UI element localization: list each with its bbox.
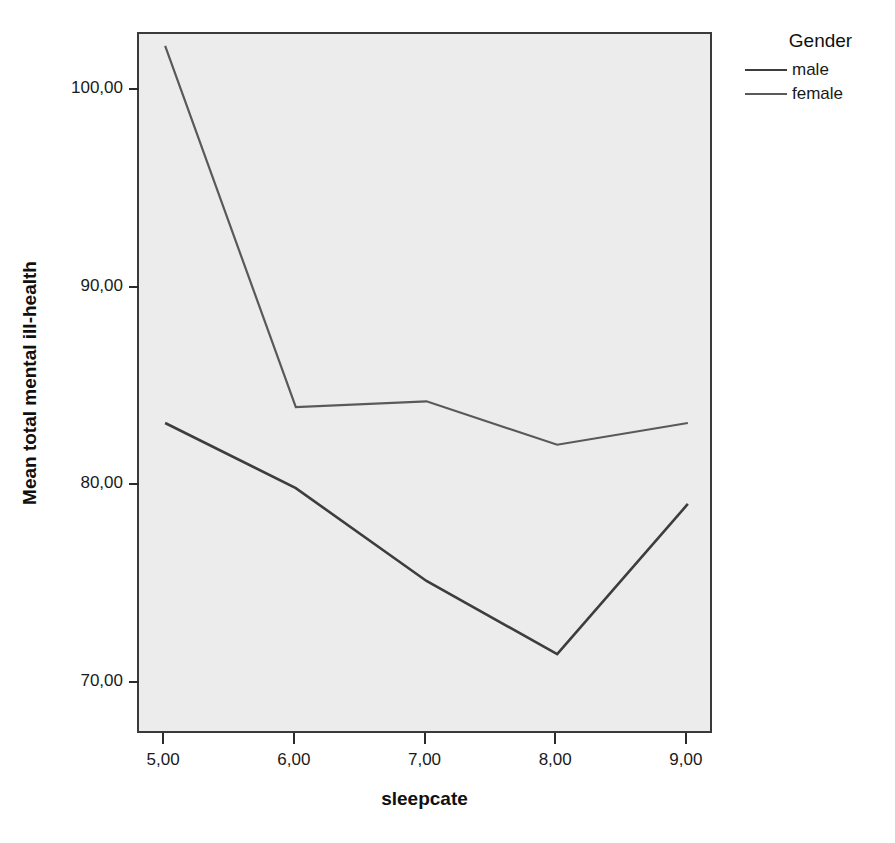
legend-item-label: female xyxy=(792,84,843,104)
legend-item-male: male xyxy=(745,58,890,82)
legend-line-swatch xyxy=(745,93,787,95)
x-axis-tick-label-text: 9,00 xyxy=(641,750,731,770)
x-axis-tick-label: 7,00 xyxy=(380,750,470,772)
y-axis-title-holder: Mean total mental ill-health xyxy=(10,32,50,733)
x-axis-tick-label-text: 7,00 xyxy=(380,750,470,770)
series-line-male xyxy=(165,423,688,654)
plot-series-canvas xyxy=(139,34,714,735)
y-axis-tick xyxy=(129,483,139,485)
y-axis-tick xyxy=(129,681,139,683)
x-axis-tick xyxy=(685,733,687,744)
y-axis-tick xyxy=(129,286,139,288)
legend-item-female: female xyxy=(745,82,890,106)
x-axis-tick-label: 5,00 xyxy=(118,750,208,772)
line-chart-figure: 100,0090,0080,0070,00 5,006,007,008,009,… xyxy=(0,0,895,843)
x-axis-tick-label-text: 5,00 xyxy=(118,750,208,770)
plot-area xyxy=(137,32,712,733)
x-axis-tick xyxy=(293,733,295,744)
x-axis-tick-label-text: 8,00 xyxy=(510,750,600,770)
y-axis-title: Mean total mental ill-health xyxy=(19,261,41,505)
x-axis-tick-label: 6,00 xyxy=(249,750,339,772)
x-axis-tick-label: 9,00 xyxy=(641,750,731,772)
x-axis-tick-label-text: 6,00 xyxy=(249,750,339,770)
x-axis-tick xyxy=(424,733,426,744)
x-axis-tick xyxy=(554,733,556,744)
x-axis-tick-label: 8,00 xyxy=(510,750,600,772)
x-axis-title: sleepcate xyxy=(137,788,712,810)
legend-entries: malefemale xyxy=(745,58,890,106)
legend-line-swatch xyxy=(745,69,787,71)
legend-item-label: male xyxy=(792,60,829,80)
legend: Gender malefemale xyxy=(745,30,890,106)
x-axis-tick xyxy=(162,733,164,744)
series-line-female xyxy=(165,46,688,445)
y-axis-tick xyxy=(129,88,139,90)
legend-title: Gender xyxy=(745,30,890,52)
